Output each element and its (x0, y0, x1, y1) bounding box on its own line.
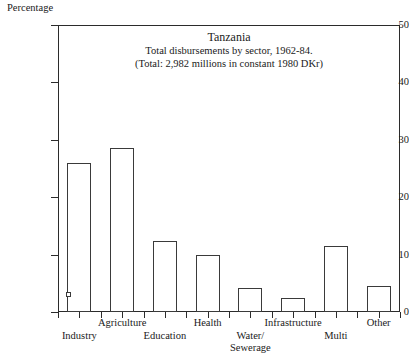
x-axis-labels: IndustryAgricultureEducationHealthWater/… (0, 0, 409, 353)
x-axis-label: Agriculture (98, 317, 146, 329)
x-axis-label: Other (367, 317, 391, 329)
x-axis-label: Water/ Sewerage (222, 330, 278, 353)
x-axis-label: Health (194, 317, 222, 329)
x-axis-label: Infrastructure (265, 317, 322, 329)
x-axis-label: Education (144, 330, 187, 342)
x-axis-label: Multi (324, 330, 347, 342)
chart-figure: Percentage 01020304050 Tanzania Total di… (0, 0, 409, 353)
x-axis-label: Industry (62, 330, 97, 342)
